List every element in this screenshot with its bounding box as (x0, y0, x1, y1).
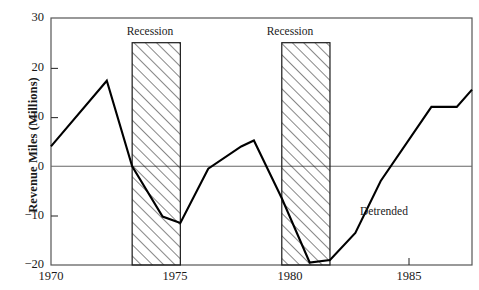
recession-label-2: Recession (245, 26, 335, 38)
y-axis-title: Revenue Miles (Millions) (22, 0, 44, 290)
series-annotation-detrended: Detrended (360, 206, 408, 218)
y-tick-label-10: 10 (12, 110, 44, 123)
x-tick-label-1980: 1980 (260, 270, 320, 283)
recession-band-1 (132, 43, 180, 265)
recession-band-2 (282, 43, 330, 265)
y-tick-label-0: 0 (12, 160, 44, 173)
x-tick-label-1975: 1975 (145, 270, 205, 283)
y-tick-label-20: 20 (12, 61, 44, 74)
y-tick-label-30: 30 (12, 11, 44, 24)
recession-label-1: Recession (105, 26, 195, 38)
y-tick-label-neg10: −10 (8, 209, 44, 222)
x-tick-label-1985: 1985 (379, 270, 439, 283)
series-line-detrended (51, 81, 472, 263)
chart-canvas (0, 0, 479, 290)
detrended-revenue-miles-chart: Revenue Miles (Millions) 30 20 10 0 −10 … (0, 0, 479, 290)
x-tick-label-1970: 1970 (21, 270, 81, 283)
